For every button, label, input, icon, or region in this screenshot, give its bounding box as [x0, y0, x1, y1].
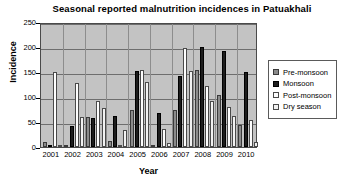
legend-label: Post-monsoon — [283, 91, 331, 100]
y-tick-label: 50 — [14, 119, 36, 127]
y-tick-mark — [36, 48, 40, 49]
x-tick-label: 2006 — [149, 150, 171, 159]
bar[interactable] — [227, 107, 231, 147]
y-tick-label: 0 — [14, 144, 36, 152]
bar[interactable] — [173, 110, 177, 148]
bar-group — [42, 24, 64, 147]
legend-label: Dry season — [283, 102, 321, 111]
legend-item[interactable]: Monsoon — [273, 79, 331, 88]
y-tick-label: 150 — [14, 69, 36, 77]
bar[interactable] — [64, 145, 68, 148]
bar[interactable] — [238, 125, 242, 148]
bar-groups — [41, 24, 256, 147]
bar[interactable] — [183, 48, 187, 147]
bar[interactable] — [48, 145, 52, 147]
bar[interactable] — [189, 71, 193, 147]
y-axis-ticks: 050100150200250 — [14, 0, 36, 194]
bar[interactable] — [162, 129, 166, 148]
bar[interactable] — [130, 110, 134, 148]
bar[interactable] — [151, 145, 155, 147]
x-tick-label: 2004 — [105, 150, 127, 159]
bar[interactable] — [205, 86, 209, 147]
x-axis-ticks: 2001200220032004200520062007200820092010 — [40, 150, 257, 159]
bar-group — [86, 24, 108, 147]
bar[interactable] — [222, 51, 226, 147]
bar-group — [194, 24, 216, 147]
legend-swatch-icon — [273, 104, 279, 110]
bar[interactable] — [254, 142, 258, 147]
bar[interactable] — [157, 113, 161, 147]
legend-label: Monsoon — [283, 79, 314, 88]
bar[interactable] — [123, 130, 127, 148]
bar[interactable] — [91, 118, 95, 147]
bar[interactable] — [145, 82, 149, 147]
y-tick-mark — [36, 148, 40, 149]
x-tick-label: 2005 — [127, 150, 149, 159]
bar-group — [173, 24, 195, 147]
bar[interactable] — [200, 47, 204, 147]
legend-swatch-icon — [273, 69, 279, 75]
y-tick-mark — [36, 123, 40, 124]
bar[interactable] — [70, 126, 74, 147]
bar-group — [64, 24, 86, 147]
bar[interactable] — [118, 145, 122, 147]
bar[interactable] — [108, 141, 112, 148]
legend-item[interactable]: Post-monsoon — [273, 91, 331, 100]
x-tick-label: 2002 — [62, 150, 84, 159]
x-tick-label: 2008 — [192, 150, 214, 159]
bar[interactable] — [217, 95, 221, 148]
bar-group — [238, 24, 259, 147]
y-tick-mark — [36, 73, 40, 74]
bar[interactable] — [86, 117, 90, 147]
bar[interactable] — [53, 72, 57, 147]
chart-title: Seasonal reported malnutrition incidence… — [0, 3, 364, 14]
bar[interactable] — [195, 70, 199, 148]
x-tick-label: 2007 — [170, 150, 192, 159]
chart-legend: Pre-monsoonMonsoonPost-monsoonDry season — [268, 60, 337, 119]
legend-item[interactable]: Dry season — [273, 102, 331, 111]
legend-item[interactable]: Pre-monsoon — [273, 68, 331, 77]
y-tick-label: 100 — [14, 94, 36, 102]
x-tick-label: 2009 — [214, 150, 236, 159]
bar-group — [129, 24, 151, 147]
bar[interactable] — [244, 72, 248, 147]
bar[interactable] — [80, 117, 84, 147]
bar[interactable] — [178, 76, 182, 148]
bar-chart: Seasonal reported malnutrition incidence… — [0, 0, 364, 194]
bar-group — [107, 24, 129, 147]
plot-area — [40, 23, 257, 148]
bar[interactable] — [43, 142, 47, 147]
bar[interactable] — [113, 116, 117, 147]
legend-swatch-icon — [273, 92, 279, 98]
x-tick-label: 2001 — [40, 150, 62, 159]
bar-group — [151, 24, 173, 147]
bar-group — [216, 24, 238, 147]
bar[interactable] — [210, 101, 214, 147]
bar[interactable] — [102, 108, 106, 147]
bar[interactable] — [232, 116, 236, 147]
y-tick-mark — [36, 98, 40, 99]
legend-swatch-icon — [273, 81, 279, 87]
bar[interactable] — [58, 145, 62, 147]
bar[interactable] — [75, 83, 79, 147]
bar[interactable] — [140, 70, 144, 148]
x-axis-label: Year — [40, 166, 257, 176]
bar[interactable] — [135, 71, 139, 147]
y-tick-mark — [36, 23, 40, 24]
legend-label: Pre-monsoon — [283, 68, 328, 77]
y-tick-label: 250 — [14, 19, 36, 27]
bar[interactable] — [96, 101, 100, 147]
bar[interactable] — [167, 143, 171, 147]
bar[interactable] — [249, 120, 253, 148]
y-tick-label: 200 — [14, 44, 36, 52]
x-tick-label: 2010 — [235, 150, 257, 159]
x-tick-label: 2003 — [83, 150, 105, 159]
